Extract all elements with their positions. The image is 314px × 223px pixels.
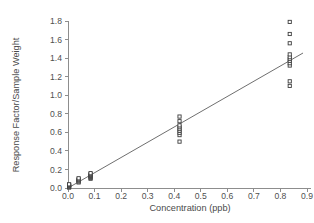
y-tick-label: 0.0 [50, 183, 62, 193]
data-point-marker [288, 20, 291, 23]
data-point-marker [288, 42, 291, 45]
data-point-marker [288, 53, 291, 56]
y-tick-label: 0.2 [50, 165, 62, 175]
data-point-markers [67, 20, 291, 189]
data-point-marker [178, 120, 181, 123]
data-point-marker [288, 84, 291, 87]
data-point-marker [67, 183, 70, 186]
data-point-marker [178, 115, 181, 118]
y-tick-label: 0.4 [50, 146, 62, 156]
data-point-marker [89, 172, 92, 175]
x-tick-label: 0.8 [274, 191, 286, 201]
x-tick-label: 0.4 [168, 191, 180, 201]
regression-line [68, 53, 303, 188]
data-point-marker [288, 32, 291, 35]
data-point-marker [178, 140, 181, 143]
y-tick-label: 0.6 [50, 127, 62, 137]
y-tick-label: 0.8 [50, 109, 62, 119]
x-tick-label: 0.3 [142, 191, 154, 201]
x-axis-title: Concentration (ppb) [149, 203, 230, 213]
scatter-chart: 0.00.20.40.60.81.01.21.41.61.8 0.00.10.2… [0, 0, 314, 223]
data-point-marker [77, 177, 80, 180]
x-tick-label: 0.5 [195, 191, 207, 201]
x-tick-label: 0.7 [248, 191, 260, 201]
y-axis-tick-marks [65, 21, 69, 188]
y-tick-label: 1.2 [50, 72, 62, 82]
y-axis-tick-labels: 0.00.20.40.60.81.01.21.41.61.8 [50, 16, 62, 193]
data-point-marker [288, 80, 291, 83]
x-tick-label: 0.2 [115, 191, 127, 201]
x-tick-label: 0.9 [301, 191, 313, 201]
y-tick-label: 1.6 [50, 35, 62, 45]
x-axis-tick-labels: 0.00.10.20.30.40.50.60.70.80.9 [62, 191, 313, 201]
data-point-marker [178, 124, 181, 127]
x-tick-label: 0.1 [89, 191, 101, 201]
y-tick-label: 1.0 [50, 90, 62, 100]
x-axis-tick-marks [68, 188, 307, 192]
y-axis-title: Response Factor/Sample Weight [11, 37, 21, 172]
plot-canvas: 0.00.20.40.60.81.01.21.41.61.8 0.00.10.2… [0, 0, 314, 223]
x-tick-label: 0.6 [221, 191, 233, 201]
y-tick-label: 1.4 [50, 53, 62, 63]
x-tick-label: 0.0 [62, 191, 74, 201]
y-tick-label: 1.8 [50, 16, 62, 26]
